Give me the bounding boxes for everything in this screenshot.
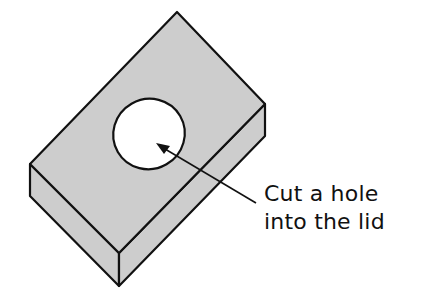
annotation-line-1: Cut a hole (264, 180, 385, 208)
diagram: Cut a hole into the lid (0, 0, 444, 308)
annotation-label: Cut a hole into the lid (264, 180, 385, 236)
box-illustration (0, 0, 444, 308)
annotation-line-2: into the lid (264, 208, 385, 236)
